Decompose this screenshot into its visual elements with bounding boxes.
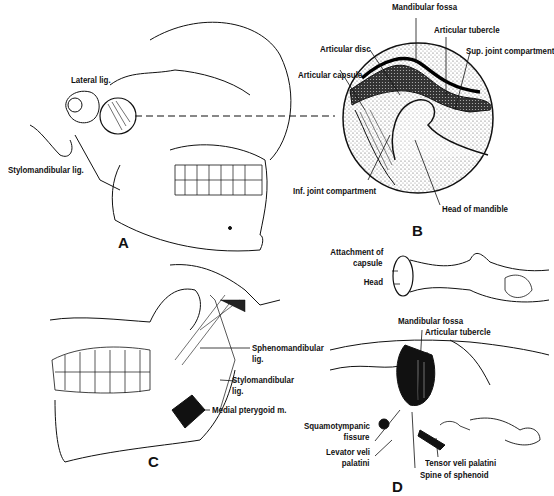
label-mandibular-fossa-b: Mandibular fossa: [392, 2, 457, 12]
label-squamotympanic-fissure-1: Squamotympanic: [304, 421, 370, 431]
label-mandibular-fossa-d: Mandibular fossa: [398, 316, 463, 326]
label-articular-tubercle-b: Articular tubercle: [434, 25, 500, 35]
panel-a-skull: [30, 22, 335, 251]
label-inf-joint-compartment: Inf. joint compartment: [293, 186, 376, 196]
label-sphenomandibular-lig-1: Sphenomandibular: [252, 343, 324, 353]
label-levator-veli-palatini-1: Levator veli: [326, 447, 370, 457]
label-squamotympanic-fissure-2: fissure: [344, 432, 370, 442]
label-sup-joint-compartment: Sup. joint compartment: [466, 46, 554, 56]
label-levator-veli-palatini-2: palatini: [342, 458, 370, 468]
label-articular-capsule: Articular capsule: [298, 70, 362, 80]
panel-letter-b: B: [412, 222, 423, 239]
label-stylomandibular-lig-c-1: Stylomandibular: [232, 375, 294, 385]
label-articular-disc: Articular disc: [320, 44, 371, 54]
panel-letter-a: A: [118, 234, 129, 251]
panel-letter-c: C: [148, 453, 159, 470]
label-attachment-of-capsule-1: Attachment of: [330, 247, 383, 257]
panel-c-mandible: [50, 265, 280, 462]
label-attachment-of-capsule-2: capsule: [353, 258, 383, 268]
label-sphenomandibular-lig-2: lig.: [252, 354, 263, 364]
panel-letter-d: D: [392, 478, 403, 495]
label-lateral-lig: Lateral lig.: [71, 75, 111, 85]
label-head: Head: [364, 277, 383, 287]
label-spine-of-sphenoid: Spine of sphenoid: [420, 470, 489, 480]
label-tensor-veli-palatini: Tensor veli palatini: [425, 458, 496, 468]
label-stylomandibular-lig-a: Stylomandibular lig.: [8, 165, 84, 175]
label-articular-tubercle-d: Articular tubercle: [425, 327, 491, 337]
label-medial-pterygoid: Medial pterygoid m.: [212, 405, 286, 415]
label-stylomandibular-lig-c-2: lig.: [232, 386, 243, 396]
label-head-of-mandible: Head of mandible: [442, 204, 508, 214]
